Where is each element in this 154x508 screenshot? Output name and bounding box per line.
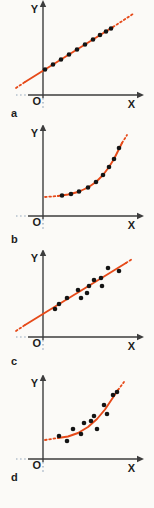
data-point bbox=[69, 192, 74, 197]
panel-d: YXOd bbox=[0, 375, 154, 508]
data-point bbox=[105, 412, 110, 417]
data-point bbox=[77, 189, 82, 194]
data-point bbox=[51, 62, 56, 67]
data-point bbox=[102, 403, 107, 408]
data-point bbox=[65, 296, 70, 301]
data-point bbox=[57, 434, 62, 439]
plot-b: YXOb bbox=[0, 125, 154, 250]
x-axis-label: X bbox=[128, 98, 136, 110]
panel-letter-label: b bbox=[11, 233, 18, 245]
data-point bbox=[115, 390, 120, 395]
y-axis-label: Y bbox=[31, 377, 39, 389]
data-point bbox=[98, 33, 103, 38]
fit-dotted-start bbox=[45, 196, 58, 197]
data-point bbox=[82, 421, 87, 426]
panel-letter-label: a bbox=[11, 107, 18, 119]
data-point bbox=[53, 307, 58, 312]
origin-label: O bbox=[32, 95, 41, 107]
fit-dotted-start bbox=[16, 325, 25, 331]
y-axis-arrowhead bbox=[40, 125, 46, 131]
data-point bbox=[101, 173, 106, 178]
data-point bbox=[106, 266, 111, 271]
data-point bbox=[92, 414, 97, 419]
four-panel-fit-figure: YXOa YXOb YXOc YXOd bbox=[0, 0, 154, 508]
data-point bbox=[76, 288, 81, 293]
data-point bbox=[75, 47, 80, 52]
data-point bbox=[107, 165, 112, 170]
data-point bbox=[99, 276, 104, 281]
data-point bbox=[117, 146, 122, 151]
data-point bbox=[71, 427, 76, 432]
data-point bbox=[111, 393, 116, 398]
x-axis-arrowhead bbox=[137, 456, 144, 462]
data-point bbox=[43, 67, 48, 72]
origin-label: O bbox=[32, 337, 41, 349]
y-axis-arrowhead bbox=[40, 250, 46, 256]
data-point bbox=[117, 269, 122, 274]
data-point bbox=[59, 57, 64, 62]
origin-label: O bbox=[32, 459, 41, 471]
data-point bbox=[67, 52, 72, 57]
fit-dotted-end bbox=[126, 259, 133, 264]
data-point bbox=[91, 37, 96, 42]
data-point bbox=[65, 439, 70, 444]
fit-dotted-start bbox=[45, 438, 58, 440]
origin-label: O bbox=[32, 216, 41, 228]
data-point bbox=[94, 180, 99, 185]
y-axis-label: Y bbox=[31, 252, 39, 264]
panel-a: YXOa bbox=[0, 0, 154, 125]
data-point bbox=[112, 157, 117, 162]
y-axis-label: Y bbox=[31, 127, 39, 139]
fit-dotted-end bbox=[118, 382, 124, 390]
y-axis-arrowhead bbox=[40, 0, 46, 7]
data-point bbox=[104, 29, 109, 34]
x-axis-label: X bbox=[128, 219, 136, 231]
x-axis-arrowhead bbox=[137, 213, 144, 219]
data-point bbox=[83, 42, 88, 47]
data-point bbox=[85, 291, 90, 296]
data-point bbox=[87, 284, 92, 289]
plot-d: YXOd bbox=[0, 375, 154, 508]
data-point bbox=[89, 419, 94, 424]
panel-letter-label: c bbox=[11, 355, 17, 367]
y-axis-label: Y bbox=[31, 3, 39, 15]
fit-dotted-end bbox=[113, 14, 133, 27]
panel-c: YXOc bbox=[0, 250, 154, 375]
x-axis-label: X bbox=[128, 462, 136, 474]
fit-line bbox=[25, 263, 126, 325]
plot-a: YXOa bbox=[0, 0, 154, 125]
data-point bbox=[95, 427, 100, 432]
plot-c: YXOc bbox=[0, 250, 154, 375]
x-axis-label: X bbox=[128, 340, 136, 352]
panel-b: YXOb bbox=[0, 125, 154, 250]
data-point bbox=[79, 432, 84, 437]
x-axis-arrowhead bbox=[137, 334, 144, 340]
panel-letter-label: d bbox=[11, 471, 18, 483]
fit-dotted-start bbox=[16, 82, 25, 88]
x-axis-arrowhead bbox=[137, 92, 144, 98]
data-point bbox=[86, 185, 91, 190]
data-point bbox=[109, 26, 114, 31]
data-point bbox=[57, 302, 62, 307]
data-point bbox=[79, 296, 84, 301]
data-point bbox=[92, 278, 97, 283]
fit-dotted-end bbox=[122, 135, 127, 143]
data-point bbox=[100, 284, 105, 289]
data-point bbox=[60, 193, 65, 198]
y-axis-arrowhead bbox=[40, 375, 46, 381]
